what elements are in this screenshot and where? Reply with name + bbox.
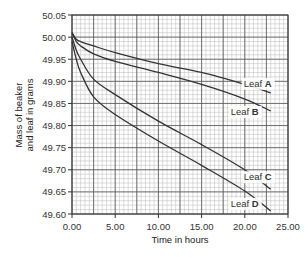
y-tick-label: 49.80 [42,120,66,131]
y-tick-label: 49.95 [42,54,66,65]
y-tick-label: 49.90 [42,76,66,87]
x-tick-label: 20.00 [233,221,257,232]
y-axis-ticks: 49.6049.6549.7049.7549.8049.8549.9049.95… [42,10,72,220]
x-axis-ticks: 0.005.0010.0015.0020.0025.00 [63,214,300,232]
x-tick-label: 25.00 [276,221,300,232]
y-tick-label: 49.85 [42,98,66,109]
series-labels: Leaf ALeaf BLeaf CLeaf D [229,78,275,210]
y-axis-label-line1: Mass of beaker [13,83,24,148]
y-tick-label: 49.70 [42,164,66,175]
y-tick-label: 50.00 [42,32,66,43]
x-tick-label: 10.00 [147,221,171,232]
x-tick-label: 0.00 [63,221,82,232]
series-label-a: Leaf A [244,78,272,89]
y-tick-label: 50.05 [42,10,66,21]
x-axis-label: Time in hours [151,234,208,245]
line-chart: 49.6049.6549.7049.7549.8049.8549.9049.95… [0,0,307,257]
y-tick-label: 49.65 [42,186,66,197]
x-tick-label: 15.00 [190,221,214,232]
y-tick-label: 49.75 [42,142,66,153]
series-label-c: Leaf C [244,171,272,182]
series-label-d: Leaf D [231,198,259,209]
series-label-b: Leaf B [231,106,259,117]
y-tick-label: 49.60 [42,209,66,220]
x-tick-label: 5.00 [106,221,125,232]
y-axis-label: Mass of beaker and leaf in grams [13,78,35,151]
y-axis-label-line2: and leaf in grams [24,78,35,151]
